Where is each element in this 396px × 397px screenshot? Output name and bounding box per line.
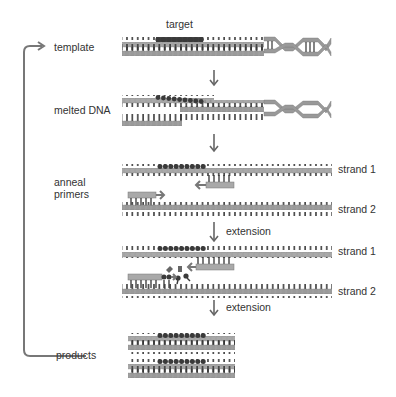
- product-dna-1: [128, 333, 235, 354]
- extension-label: extension: [226, 225, 271, 237]
- arrow-down-icon: [210, 70, 218, 85]
- strand1-label: strand 1: [338, 245, 376, 257]
- strand2-label: strand 2: [338, 285, 376, 297]
- extension-label: extension: [226, 301, 271, 313]
- template-dna: [122, 37, 331, 58]
- arrow-down-icon: [210, 134, 218, 151]
- primer-reverse: [196, 175, 234, 189]
- arrow-down-icon: [210, 222, 218, 241]
- product-dna-2: [128, 359, 235, 380]
- template-label: template: [54, 41, 94, 53]
- extending-strands: [122, 246, 332, 298]
- strand1-label: strand 1: [338, 163, 376, 175]
- arrow-down-icon: [210, 300, 218, 315]
- products-label: products: [56, 349, 96, 361]
- annealed-strands: [122, 164, 332, 216]
- anneal-primers-label: anneal primers: [54, 176, 89, 200]
- target-region: [155, 37, 203, 42]
- target-label: target: [166, 18, 193, 30]
- strand2-label: strand 2: [338, 203, 376, 215]
- melted-dna: [122, 95, 331, 126]
- melted-dna-label: melted DNA: [54, 104, 111, 116]
